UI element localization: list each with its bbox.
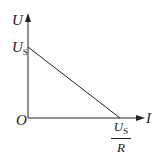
x-intercept-numerator: US [111,120,131,139]
y-axis-label: U [12,13,23,28]
load-line [28,47,120,118]
x-axis-arrow-icon [136,115,145,121]
numerator-sub: S [123,126,128,136]
x-intercept-label: US R [111,120,131,153]
x-axis-label: I [146,111,151,126]
x-intercept-denominator: R [111,139,131,153]
y-intercept-main: U [12,39,23,55]
graph-canvas [0,0,157,153]
y-intercept-label: US [12,40,28,57]
origin-label: O [16,113,27,128]
y-intercept-sub: S [23,47,28,57]
y-axis-arrow-icon [25,13,31,22]
numerator-main: U [114,119,123,134]
